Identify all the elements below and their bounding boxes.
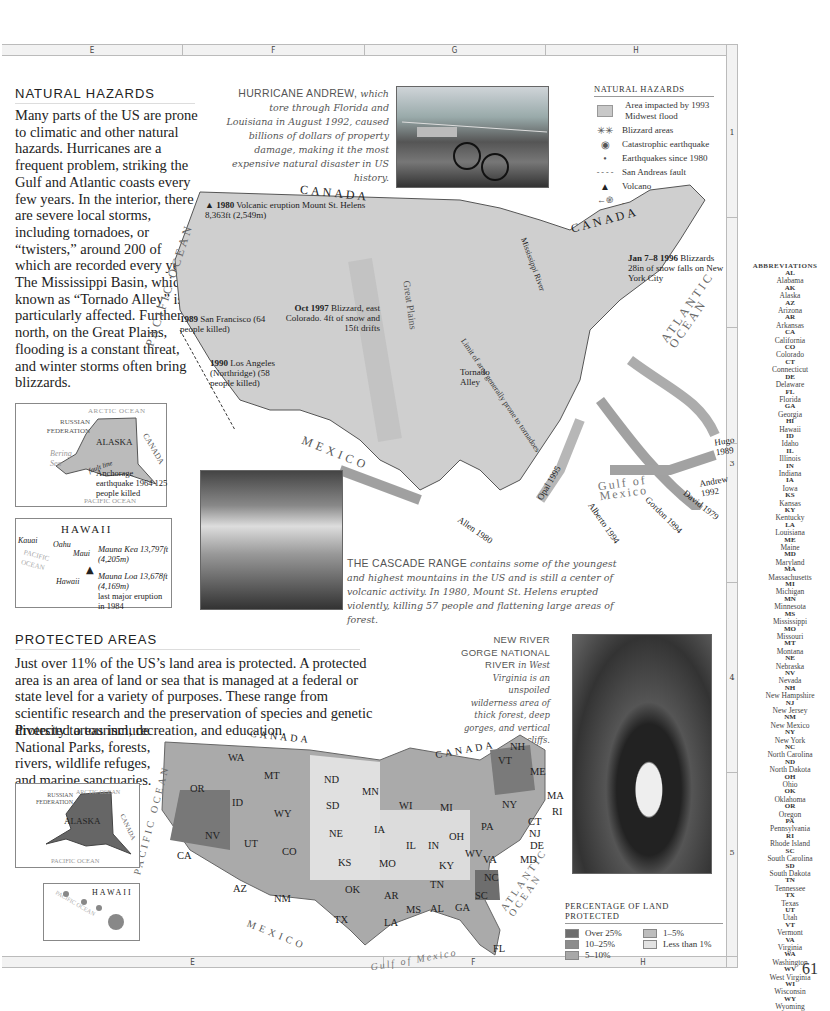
state-label: WI (399, 800, 412, 811)
state-label: IL (406, 840, 416, 851)
legend-item-flood: Area impacted by 1993 Midwest flood (594, 100, 714, 122)
mount-st-helens-photo (200, 470, 343, 610)
state-label: ME (530, 766, 546, 777)
alaska-inset-hazards: ARCTIC OCEAN RUSSIAN FEDERATION ALASKA C… (15, 403, 167, 507)
legend-item-over-25: Over 25% (565, 928, 643, 939)
swatch-less-1 (643, 940, 657, 949)
legend-item-fault: - - - -San Andreas fault (594, 167, 714, 178)
legend-item-blizzard: ✳✳Blizzard areas (594, 125, 714, 136)
state-label: NJ (529, 828, 541, 839)
state-label: AZ (233, 883, 247, 894)
state-label: OH (449, 831, 464, 842)
state-label: MI (440, 802, 453, 813)
new-river-gorge-photo (572, 634, 712, 874)
grid-row-5: 5 (727, 773, 737, 956)
cascade-range-caption: THE CASCADE RANGE contains some of the y… (347, 556, 627, 627)
us-relief-map (160, 180, 730, 510)
state-label: VT (498, 755, 512, 766)
state-label: KY (439, 860, 454, 871)
state-label: GA (455, 902, 470, 913)
state-label: MN (362, 786, 379, 797)
state-label: AL (430, 903, 444, 914)
alaska-inset-protected: ARCTIC OCEAN RUSSIAN FEDERATION ALASKA C… (15, 783, 140, 868)
state-label: CT (528, 816, 541, 827)
hurricane-andrew-caption: HURRICANE ANDREW, which tore through Flo… (225, 86, 389, 185)
state-label: RI (552, 806, 563, 817)
state-label: MT (264, 770, 280, 781)
state-label: ID (232, 797, 243, 808)
grid-column-f: F (183, 45, 364, 55)
volcano-icon: ▲ (86, 564, 94, 575)
state-label: TN (430, 879, 444, 890)
fault-line-icon: - - - - (594, 167, 616, 178)
state-label: MS (406, 904, 421, 915)
map-label-tornado-alley: Tornado Alley (460, 367, 500, 387)
sf-earthquake-label: 1989 San Francisco (64 people killed) (180, 314, 280, 334)
state-label: SD (326, 800, 339, 811)
swatch-5-10 (565, 951, 579, 960)
grid-column-g: G (365, 45, 546, 55)
state-label: SC (475, 890, 488, 901)
state-label: MO (379, 858, 396, 869)
grid-column-h: H (546, 45, 727, 55)
divider (15, 103, 195, 104)
la-earthquake-label: 1990 Los Angeles (Northridge) (58 people… (210, 358, 290, 388)
volcano-icon: ▲ (205, 200, 216, 210)
page-number: 61 (802, 960, 818, 978)
wreckage-image (397, 87, 550, 189)
state-label: NE (329, 828, 343, 839)
natural-hazards-title: NATURAL HAZARDS (15, 86, 155, 101)
state-label: ND (324, 774, 339, 785)
state-label: NH (510, 741, 525, 752)
protected-areas-body-2: Protected areas include National Parks, … (15, 722, 155, 789)
grid-column-e: E (2, 45, 183, 55)
state-label: KS (338, 857, 351, 868)
colorado-blizzard-label: Oct 1997 Blizzard, east Colorado. 4ft of… (285, 303, 380, 333)
swatch-1-5 (643, 929, 657, 938)
state-label: FL (493, 943, 505, 954)
state-label: IN (428, 840, 439, 851)
state-label: CO (282, 846, 297, 857)
protected-areas-legend: PERCENTAGE OF LAND PROTECTED Over 25% 10… (565, 901, 723, 961)
state-label: WA (228, 752, 244, 763)
state-label: PA (481, 821, 493, 832)
st-helens-label: ▲ 1980 Volcanic eruption Mount St. Helen… (205, 200, 375, 220)
abbreviation-state-name: Wyoming (752, 1003, 828, 1010)
state-label: TX (334, 914, 348, 925)
hurricane-allen-label: Allen 1980 (456, 514, 495, 545)
state-label: AR (384, 890, 399, 901)
abbreviations-list: ABBREVIATIONS ALAlabamaAKAlaskaAZArizona… (752, 262, 828, 1011)
hawaii-inset-hazards: HAWAII Kauai Oahu Maui Hawaii PACIFIC OC… (15, 518, 172, 608)
natural-hazards-map: CANADA CANADA PACIFIC OCEAN ATLANTIC OCE… (160, 180, 730, 500)
state-label: WY (274, 808, 292, 819)
hawaii-inset-protected: HAWAII PACIFIC OCEAN (43, 883, 140, 941)
protected-areas-map: CANADA CANADA PACIFIC OCEAN ATLANTIC OCE… (150, 730, 570, 980)
hurricane-andrew-photo (396, 86, 549, 188)
state-label: OK (345, 884, 360, 895)
divider (15, 649, 360, 650)
legend-title: NATURAL HAZARDS (594, 84, 714, 97)
state-label: WV (465, 848, 483, 859)
hurricane-hugo-label: Hugo 1989 (714, 435, 737, 458)
state-label: LA (384, 917, 398, 928)
protected-areas-title: PROTECTED AREAS (15, 632, 157, 647)
state-label: OR (190, 783, 205, 794)
state-label: UT (244, 838, 258, 849)
state-label: DE (530, 840, 544, 851)
legend-item-10-25: 10–25% (565, 939, 643, 950)
state-label: VA (483, 854, 497, 865)
legend-item-1-5: 1–5% (643, 928, 712, 939)
legend-item-5-10: 5–10% (565, 950, 643, 961)
ny-blizzard-label: Jan 7–8 1996 Blizzards 28in of snow fall… (628, 253, 728, 283)
swatch-10-25 (565, 940, 579, 949)
state-label: MD (520, 854, 537, 865)
legend-title: PERCENTAGE OF LAND PROTECTED (565, 901, 723, 924)
grid-row-4: 4 (727, 583, 737, 773)
state-label: CA (177, 850, 192, 861)
state-label: NM (274, 893, 291, 904)
legend-item-less-1: Less than 1% (643, 939, 712, 950)
earthquake-icon: • (594, 153, 616, 164)
state-label: IA (374, 824, 385, 835)
state-label: MA (547, 790, 564, 801)
state-label: NV (205, 830, 220, 841)
